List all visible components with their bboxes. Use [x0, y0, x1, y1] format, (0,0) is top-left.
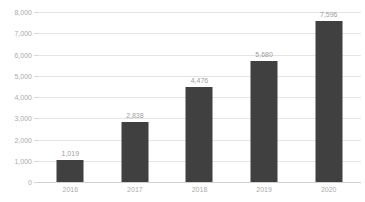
- x-tick-label-2020: 2020: [299, 186, 359, 194]
- bar-2019[interactable]: [251, 61, 278, 182]
- x-tick-label-2018: 2018: [170, 186, 230, 194]
- y-tick-mark: [34, 161, 38, 162]
- y-tick-label: 2,000: [2, 137, 32, 144]
- y-tick-label: 7,000: [2, 30, 32, 37]
- bar-2020[interactable]: [315, 21, 342, 182]
- bar-2018[interactable]: [186, 87, 213, 182]
- y-tick-mark: [34, 97, 38, 98]
- y-tick-label: 6,000: [2, 52, 32, 59]
- y-tick-mark: [34, 182, 38, 183]
- bar-2016[interactable]: [57, 160, 84, 182]
- bar-slot: 4,476: [167, 12, 232, 182]
- y-tick-label: 1,000: [2, 158, 32, 165]
- y-tick-label: 5,000: [2, 73, 32, 80]
- y-tick-label: 8,000: [2, 9, 32, 16]
- plot-area: 1,0192,8384,4765,6807,596: [38, 12, 361, 182]
- bar-chart: 1,0192,8384,4765,6807,596 01,0002,0003,0…: [0, 0, 365, 202]
- bar-slot: 5,680: [232, 12, 297, 182]
- y-tick-mark: [34, 33, 38, 34]
- y-tick-mark: [34, 76, 38, 77]
- bar-slot: 7,596: [296, 12, 361, 182]
- x-tick-label-2019: 2019: [234, 186, 294, 194]
- bar-value-label: 5,680: [255, 51, 273, 58]
- y-tick-mark: [34, 118, 38, 119]
- y-tick-label: 3,000: [2, 115, 32, 122]
- bar-value-label: 7,596: [320, 11, 338, 18]
- y-tick-mark: [34, 12, 38, 13]
- y-tick-label: 0: [2, 179, 32, 186]
- x-axis-baseline: [38, 182, 361, 183]
- bar-2017[interactable]: [121, 122, 148, 182]
- bar-value-label: 1,019: [62, 150, 80, 157]
- bar-slot: 2,838: [103, 12, 168, 182]
- y-tick-mark: [34, 55, 38, 56]
- y-tick-label: 4,000: [2, 94, 32, 101]
- bar-slot: 1,019: [38, 12, 103, 182]
- y-tick-mark: [34, 140, 38, 141]
- x-tick-label-2017: 2017: [105, 186, 165, 194]
- x-tick-label-2016: 2016: [40, 186, 100, 194]
- bar-value-label: 2,838: [126, 112, 144, 119]
- bar-value-label: 4,476: [191, 77, 209, 84]
